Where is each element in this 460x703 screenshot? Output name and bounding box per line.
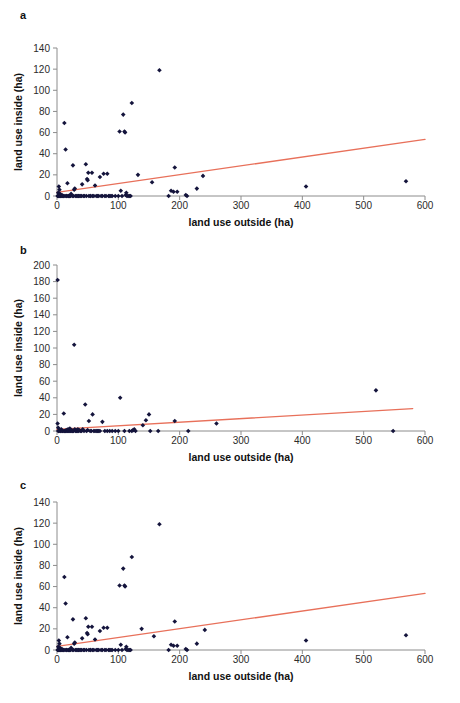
data-point [63,147,68,152]
data-point [117,129,122,134]
data-point [172,165,177,170]
y-tick-label: 100 [33,343,50,354]
x-tick-label: 0 [54,654,60,665]
data-point [118,642,123,647]
x-axis-title: land use outside (ha) [188,451,293,463]
y-axis-title: land use inside (ha) [12,73,24,171]
y-axis-title: land use inside (ha) [12,527,24,625]
data-point [117,583,122,588]
y-tick-label: 60 [39,376,51,387]
data-point [172,619,177,624]
y-tick-label: 40 [39,392,51,403]
x-axis-title: land use outside (ha) [188,670,293,682]
data-point [156,429,161,434]
x-tick-label: 400 [294,435,311,446]
data-point [116,429,121,434]
data-point [304,184,309,189]
trendline [57,593,425,646]
data-point [147,412,152,417]
x-tick-label: 0 [54,200,60,211]
y-tick-label: 120 [33,518,50,529]
data-point [121,112,126,117]
data-point [203,628,208,633]
data-point [80,182,85,187]
data-point [175,189,180,194]
data-point [166,648,171,653]
data-point [120,648,125,653]
data-point [121,566,126,571]
y-tick-label: 60 [39,581,51,592]
data-point [139,627,144,632]
y-axis-title: land use inside (ha) [12,299,24,397]
x-axis-title: land use outside (ha) [188,216,293,228]
data-point [130,555,135,560]
data-point [141,423,146,428]
data-point [150,180,155,185]
y-tick-label: 160 [33,293,50,304]
data-point [148,429,153,434]
data-point [186,429,191,434]
trendline [57,409,413,430]
data-point [118,188,123,193]
data-point [62,575,67,580]
y-tick-label: 80 [39,359,51,370]
scatter-plot-a: 0100200300400500600020406080100120140lan… [0,0,460,235]
x-tick-label: 300 [233,200,250,211]
y-tick-label: 80 [39,106,51,117]
data-point [374,388,379,393]
x-tick-label: 300 [233,435,250,446]
data-point [61,411,66,416]
x-tick-label: 600 [417,200,434,211]
y-tick-label: 180 [33,276,50,287]
plot-a-render: 0100200300400500600020406080100120140lan… [12,43,434,229]
data-point [71,617,76,622]
scatter-plot-b: 0100200300400500600020406080100120140160… [0,235,460,470]
data-point [100,420,105,425]
data-point [71,163,76,168]
data-point [201,174,206,179]
data-point [157,522,162,527]
data-point [62,121,67,126]
y-tick-label: 200 [33,260,50,271]
data-point [55,421,60,426]
data-point [304,638,309,643]
x-tick-label: 100 [110,654,127,665]
data-point [83,402,88,407]
data-point [118,396,123,401]
data-point [90,624,95,629]
y-tick-label: 0 [44,426,50,437]
data-point [72,342,77,347]
x-tick-label: 400 [294,654,311,665]
y-tick-label: 80 [39,560,51,571]
data-point [195,186,200,191]
x-tick-label: 600 [417,654,434,665]
data-point [105,172,110,177]
data-point [84,616,89,621]
data-point [98,175,103,180]
figure-caption-ghost [8,692,452,701]
data-point [90,412,95,417]
y-tick-label: 0 [44,191,50,202]
y-tick-label: 20 [39,169,51,180]
y-tick-label: 0 [44,645,50,656]
x-tick-label: 300 [233,654,250,665]
data-point [120,194,125,199]
data-point [65,181,70,186]
data-point [152,634,157,639]
x-tick-label: 500 [355,654,372,665]
y-tick-label: 20 [39,623,51,634]
x-tick-label: 200 [171,435,188,446]
panel-b: b 01002003004005006000204060801001201401… [0,235,460,470]
data-point [80,636,85,641]
x-tick-label: 500 [355,435,372,446]
y-tick-label: 40 [39,148,51,159]
y-tick-label: 100 [33,539,50,550]
data-point [404,633,409,638]
data-point [87,419,92,424]
x-tick-label: 500 [355,200,372,211]
data-point [195,641,200,646]
data-point [65,635,70,640]
plot-c-render: 0100200300400500600020406080100120140lan… [12,497,434,683]
data-point [214,421,219,426]
y-tick-label: 140 [33,43,50,54]
